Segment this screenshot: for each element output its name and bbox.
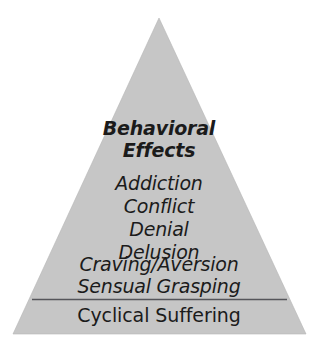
pyramid-effect-item: Conflict (0, 197, 318, 216)
pyramid-diagram: Behavioral Effects Addiction Conflict De… (0, 0, 318, 355)
pyramid-effect-item: Addiction (0, 174, 318, 193)
pyramid-effect-item: Denial (0, 220, 318, 239)
pyramid-text-layer: Behavioral Effects Addiction Conflict De… (0, 0, 318, 355)
pyramid-title-line-2: Effects (0, 141, 318, 160)
pyramid-title-line-1: Behavioral (0, 119, 318, 138)
pyramid-base-label: Cyclical Suffering (0, 306, 318, 325)
pyramid-effect-item: Sensual Grasping (0, 277, 318, 296)
pyramid-effect-item: Craving/Aversion (0, 255, 318, 274)
